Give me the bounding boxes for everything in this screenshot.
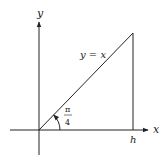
- y-axis-label: y: [36, 7, 44, 20]
- diagram-canvas: y x y = x h π 4: [0, 0, 168, 164]
- line-y-equals-x: [39, 33, 133, 130]
- angle-denominator: 4: [65, 118, 70, 127]
- angle-arc: [54, 115, 61, 130]
- h-label: h: [130, 134, 136, 145]
- line-label: y = x: [79, 49, 106, 60]
- x-axis-label: x: [153, 123, 160, 136]
- angle-numerator: π: [65, 105, 70, 114]
